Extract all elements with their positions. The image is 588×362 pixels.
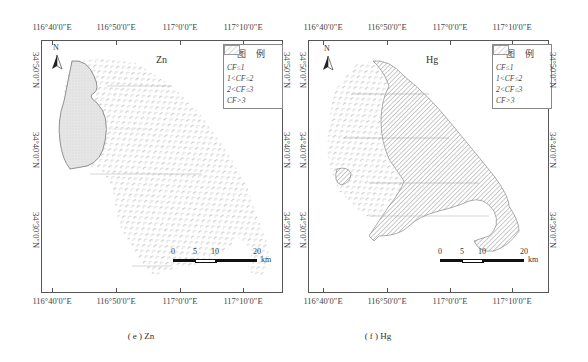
legend-item: CF≤1	[227, 62, 279, 73]
legend-item: 1<CF≤2	[227, 73, 279, 84]
legend-item: 2<CF≤3	[496, 84, 548, 95]
sparse-hatch-swatch-icon	[493, 45, 509, 55]
lat-label-left: 34°40′0″N	[298, 132, 308, 168]
lon-label-bottom: 116°50′0″E	[96, 296, 135, 306]
sparse-hatch-swatch-icon	[224, 45, 240, 55]
lon-label-top: 117°0′0″E	[163, 22, 198, 32]
lat-label-right: 34°30′0″N	[282, 212, 292, 248]
caption-hg: ( f ) Hg	[365, 331, 392, 341]
lat-label-right: 34°50′0″N	[282, 52, 292, 88]
lon-label-bottom: 117°10′0″E	[223, 296, 262, 306]
legend-item: CF>3	[227, 95, 279, 106]
lon-label-bottom: 117°10′0″E	[492, 296, 531, 306]
lon-label-bottom: 116°40′0″E	[32, 296, 71, 306]
map-frame-zn: Zn N 图 例 CF≤1 1<CF≤2 2<CF≤3	[41, 40, 283, 293]
caption-zn: ( e ) Zn	[128, 331, 155, 341]
lat-label-left: 34°30′0″N	[298, 212, 308, 248]
lat-label-left: 34°50′0″N	[31, 52, 41, 88]
scale-bar-zn: 0 5 10 20 km	[168, 247, 280, 267]
lon-label-top: 116°50′0″E	[367, 22, 406, 32]
legend-item: CF>3	[496, 95, 548, 106]
lat-label-left: 34°50′0″N	[298, 52, 308, 88]
lat-label-right: 34°40′0″N	[282, 132, 292, 168]
map-frame-hg: Hg N 图 例 CF≤1 1<CF≤2 2<CF≤3	[308, 40, 549, 293]
legend-item: 2<CF≤3	[227, 84, 279, 95]
lon-label-top: 116°40′0″E	[32, 22, 71, 32]
lon-label-top: 116°40′0″E	[303, 22, 342, 32]
lon-label-bottom: 117°0′0″E	[433, 296, 468, 306]
legend-hg: 图 例 CF≤1 1<CF≤2 2<CF≤3 CF>3	[492, 44, 552, 109]
legend-zn: 图 例 CF≤1 1<CF≤2 2<CF≤3 CF>3	[223, 44, 283, 109]
lat-label-right: 34°30′0″N	[548, 212, 558, 248]
legend-item: CF≤1	[496, 62, 548, 73]
lon-label-top: 116°50′0″E	[96, 22, 135, 32]
lon-label-bottom: 116°50′0″E	[367, 296, 406, 306]
north-arrow-icon: N	[321, 46, 335, 72]
lat-label-left: 34°30′0″N	[31, 212, 41, 248]
north-arrow-icon: N	[50, 45, 64, 71]
lon-label-top: 117°0′0″E	[433, 22, 468, 32]
map-title-hg: Hg	[426, 54, 438, 65]
lon-label-bottom: 117°0′0″E	[163, 296, 198, 306]
lon-label-top: 117°10′0″E	[492, 22, 531, 32]
lon-label-bottom: 116°40′0″E	[303, 296, 342, 306]
lat-label-right: 34°40′0″N	[548, 132, 558, 168]
lat-label-left: 34°40′0″N	[31, 132, 41, 168]
lat-label-right: 34°50′0″N	[548, 52, 558, 88]
scale-bar-hg: 0 5 10 20 km	[435, 247, 547, 267]
lon-label-top: 117°10′0″E	[223, 22, 262, 32]
legend-item: 1<CF≤2	[496, 73, 548, 84]
map-title-zn: Zn	[156, 54, 167, 65]
